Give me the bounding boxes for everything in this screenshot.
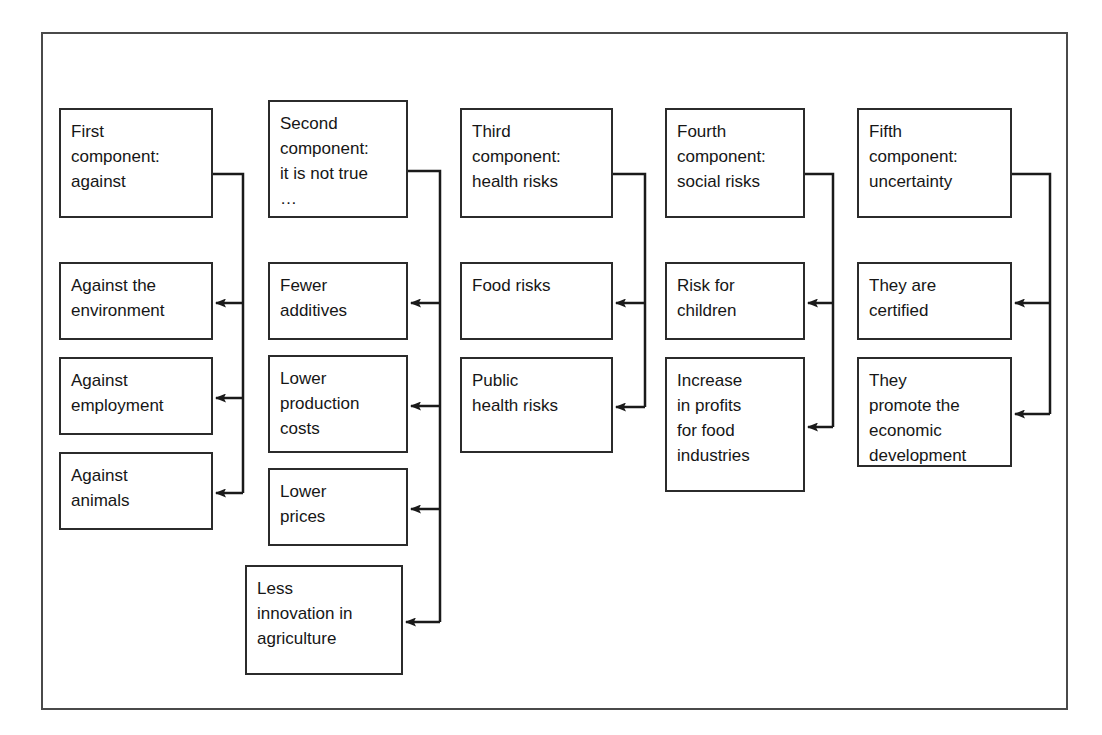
node-third-component: Third component: health risks [460, 108, 613, 218]
node-lower-production-costs: Lower production costs [268, 355, 408, 453]
node-they-promote-the-economic-development: They promote the economic development [857, 357, 1012, 467]
diagram-page: First component: againstAgainst the envi… [0, 0, 1102, 735]
node-first-component: First component: against [59, 108, 213, 218]
node-less-innovation-in-agriculture: Less innovation in agriculture [245, 565, 403, 675]
node-food-risks: Food risks [460, 262, 613, 340]
node-fourth-component: Fourth component: social risks [665, 108, 805, 218]
node-against-the-environment: Against the environment [59, 262, 213, 340]
node-increase-in-profits-for-food-industries: Increase in profits for food industries [665, 357, 805, 492]
node-against-employment: Against employment [59, 357, 213, 435]
node-fifth-component: Fifth component: uncertainty [857, 108, 1012, 218]
node-against-animals: Against animals [59, 452, 213, 530]
node-they-are-certified: They are certified [857, 262, 1012, 340]
node-public-health-risks: Public health risks [460, 357, 613, 453]
node-fewer-additives: Fewer additives [268, 262, 408, 340]
node-second-component: Second component: it is not true … [268, 100, 408, 218]
node-lower-prices: Lower prices [268, 468, 408, 546]
node-risk-for-children: Risk for children [665, 262, 805, 340]
